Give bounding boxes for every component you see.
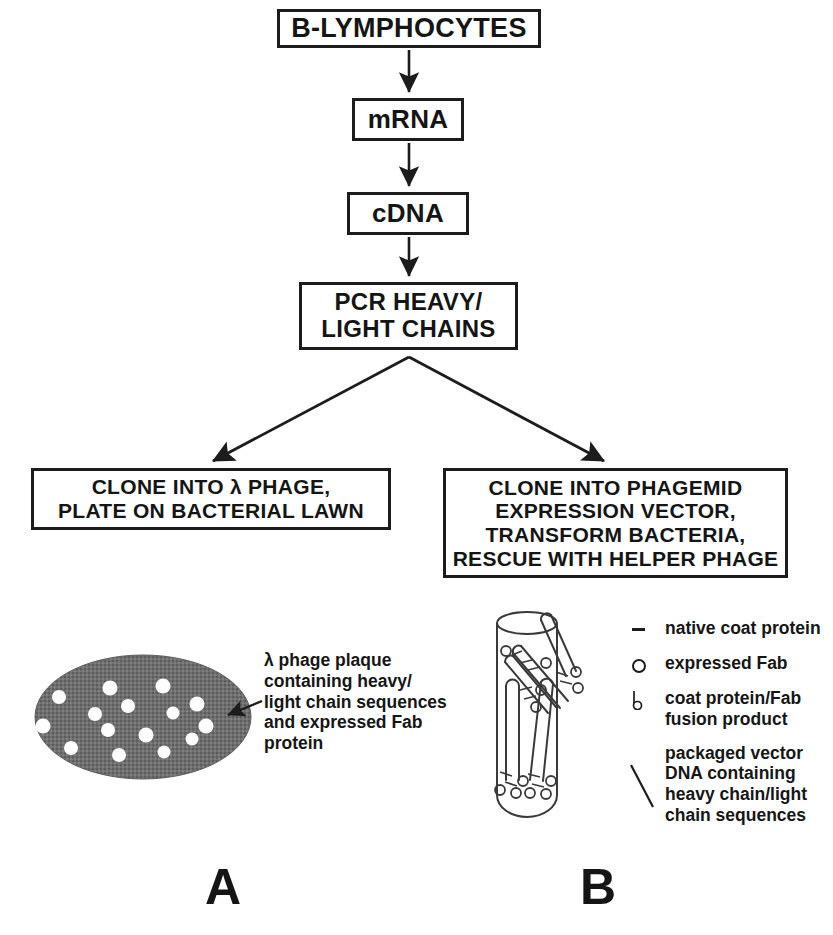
panel-letter-b: B (580, 858, 616, 916)
plaque-caption: λ phage plaque containing heavy/ light c… (264, 650, 464, 754)
flow-box-pcr-heavy-light-chains: PCR HEAVY/ LIGHT CHAINS (299, 282, 518, 350)
flow-box-clone-into-phagemid: CLONE INTO PHAGEMID EXPRESSION VECTOR, T… (443, 468, 788, 578)
figure-canvas: B-LYMPHOCYTES mRNA cDNA PCR HEAVY/ LIGHT… (0, 0, 833, 935)
flow-box-label: B-LYMPHOCYTES (280, 13, 538, 43)
legend-item-label: packaged vector DNA containing heavy cha… (665, 743, 807, 826)
flow-box-cdna: cDNA (347, 192, 469, 235)
lollipop-symbol-icon (625, 688, 665, 710)
phage-plaque-illustration (35, 655, 262, 779)
flow-box-label: cDNA (350, 199, 466, 228)
flow-box-label: mRNA (355, 105, 461, 134)
legend-item-label: expressed Fab (665, 653, 788, 674)
legend-item-label: coat protein/Fab fusion product (665, 688, 801, 730)
dash-symbol-icon (625, 618, 665, 640)
flow-box-label: PCR HEAVY/ LIGHT CHAINS (302, 289, 515, 343)
flow-box-mrna: mRNA (352, 98, 464, 141)
phage-legend: native coat protein expressed Fab coat p… (625, 618, 830, 839)
phage-particle-illustration (495, 612, 583, 817)
arrow-pcr-to-phagemid (409, 357, 604, 461)
plaque-dots (36, 679, 214, 763)
circle-symbol-icon (625, 653, 665, 675)
flow-box-clone-into-lambda-phage: CLONE INTO λ PHAGE, PLATE ON BACTERIAL L… (31, 468, 391, 530)
panel-letter-a: A (205, 858, 241, 916)
flow-box-label: CLONE INTO λ PHAGE, PLATE ON BACTERIAL L… (34, 475, 388, 522)
legend-item-native-coat-protein: native coat protein (625, 618, 830, 640)
legend-item-coat-protein-fab-fusion: coat protein/Fab fusion product (625, 688, 830, 730)
arrow-pcr-to-lambda (213, 357, 409, 461)
slash-symbol-icon (625, 759, 665, 809)
flow-box-label: CLONE INTO PHAGEMID EXPRESSION VECTOR, T… (446, 476, 785, 570)
legend-item-label: native coat protein (665, 618, 821, 639)
flow-box-b-lymphocytes: B-LYMPHOCYTES (277, 9, 541, 48)
legend-item-packaged-vector-dna: packaged vector DNA containing heavy cha… (625, 743, 830, 826)
legend-item-expressed-fab: expressed Fab (625, 653, 830, 675)
